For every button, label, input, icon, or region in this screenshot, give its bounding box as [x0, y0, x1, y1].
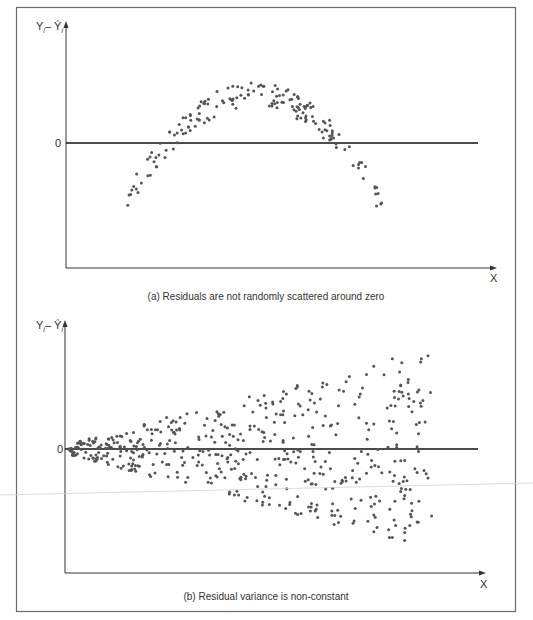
data-point [403, 476, 406, 479]
data-point [172, 148, 175, 151]
data-point [217, 453, 220, 456]
data-point [132, 185, 135, 188]
data-point [307, 435, 310, 438]
data-point [128, 194, 131, 197]
data-point [373, 503, 376, 506]
data-point [214, 474, 217, 477]
data-point [427, 354, 430, 357]
data-point [416, 391, 419, 394]
data-point [213, 441, 216, 444]
data-point [360, 450, 363, 453]
data-point [245, 475, 248, 478]
data-point [370, 505, 373, 508]
data-point [120, 435, 123, 438]
data-point [288, 503, 291, 506]
data-point [130, 469, 133, 472]
data-point [299, 450, 302, 453]
data-point [279, 400, 282, 403]
data-point [111, 458, 114, 461]
data-point [259, 84, 262, 87]
data-point [403, 497, 406, 500]
data-point [392, 480, 395, 483]
data-point [83, 457, 86, 460]
data-point [104, 447, 107, 450]
data-point [237, 493, 240, 496]
data-point [304, 105, 307, 108]
data-point [325, 383, 328, 386]
data-point [146, 428, 149, 431]
data-point [403, 531, 406, 534]
data-point [307, 478, 310, 481]
data-point [264, 402, 267, 405]
data-point [421, 399, 424, 402]
data-point [182, 116, 185, 119]
data-point [198, 112, 201, 115]
data-point [135, 173, 138, 176]
data-point [91, 440, 94, 443]
data-point [107, 444, 110, 447]
data-point [322, 473, 325, 476]
data-point [357, 416, 360, 419]
data-point [161, 460, 164, 463]
data-point [220, 423, 223, 426]
data-point [244, 477, 247, 480]
data-point [243, 404, 246, 407]
data-point [189, 129, 192, 132]
data-point [278, 504, 281, 507]
data-point [218, 467, 221, 470]
data-point [321, 131, 324, 134]
data-point [249, 428, 252, 431]
data-point [322, 424, 325, 427]
data-point [272, 99, 275, 102]
data-point [403, 494, 406, 497]
data-point [420, 357, 423, 360]
data-point [82, 442, 85, 445]
data-point [260, 93, 263, 96]
data-point [386, 407, 389, 410]
data-point [285, 478, 288, 481]
data-point [294, 462, 297, 465]
data-point [393, 518, 396, 521]
data-point [351, 469, 354, 472]
data-point [130, 465, 133, 468]
data-point [206, 102, 209, 105]
y-axis-label-a: Yi– Ŷi [36, 20, 63, 34]
data-point [194, 125, 197, 128]
data-point [430, 515, 433, 518]
data-point [311, 426, 314, 429]
data-point [307, 408, 310, 411]
data-point [179, 416, 182, 419]
data-point [261, 501, 264, 504]
y-axis-arrow-icon [64, 21, 69, 28]
data-point [263, 495, 266, 498]
data-point [187, 125, 190, 128]
data-point [183, 422, 186, 425]
data-point [294, 387, 297, 390]
data-point [215, 105, 218, 108]
data-point [350, 498, 353, 501]
data-point [301, 413, 304, 416]
data-point [231, 424, 234, 427]
data-point [404, 488, 407, 491]
data-point [313, 472, 316, 475]
data-point [155, 165, 158, 168]
data-point [395, 443, 398, 446]
data-point [236, 85, 239, 88]
data-point [277, 457, 280, 460]
data-point [235, 96, 238, 99]
data-point [370, 459, 373, 462]
data-point [242, 473, 245, 476]
data-point [125, 432, 128, 435]
data-point [217, 412, 220, 415]
data-point [205, 435, 208, 438]
data-point [231, 103, 234, 106]
data-point [263, 394, 266, 397]
data-point [274, 483, 277, 486]
data-point [402, 480, 405, 483]
data-point [141, 454, 144, 457]
data-point [375, 204, 378, 207]
data-point [180, 456, 183, 459]
data-point [282, 101, 285, 104]
data-point [418, 421, 421, 424]
data-point [296, 513, 299, 516]
